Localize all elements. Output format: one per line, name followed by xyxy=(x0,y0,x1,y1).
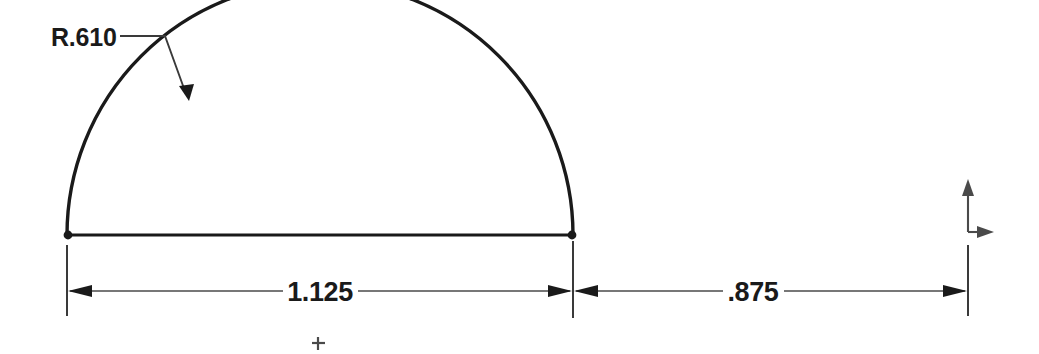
dim-arrow-875-left xyxy=(574,285,598,297)
endpoint-dot-left xyxy=(64,231,73,240)
dim-arrow-875-right xyxy=(943,285,967,297)
axis-up-arrow-icon xyxy=(962,179,974,196)
dim-label-875: .875 xyxy=(728,277,779,307)
technical-drawing-canvas: R.610 1.125 .875 xyxy=(0,0,1039,354)
dim-label-1125: 1.125 xyxy=(287,277,353,307)
dim-arrow-1125-left xyxy=(68,285,92,297)
dim-arrow-1125-right xyxy=(548,285,572,297)
endpoint-dot-right xyxy=(568,231,577,240)
radius-callout-label: R.610 xyxy=(51,23,117,51)
drawing-svg: R.610 1.125 .875 xyxy=(0,0,1039,354)
radius-leader-arrowhead xyxy=(179,84,194,101)
axis-right-arrow-icon xyxy=(977,226,994,238)
